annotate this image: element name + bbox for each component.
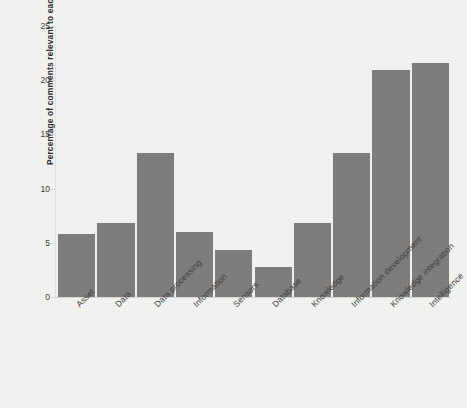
y-tick-mark — [51, 189, 55, 190]
y-tick-mark — [51, 134, 55, 135]
x-tick-label: Information development — [349, 234, 424, 309]
x-tick-label: Information — [191, 271, 229, 309]
y-tick-mark — [51, 297, 55, 298]
y-tick-mark — [51, 26, 55, 27]
x-tick-label: Asset — [74, 287, 96, 309]
x-tick-label: Database — [270, 276, 303, 309]
y-tick-mark — [51, 80, 55, 81]
x-tick-label: Data — [113, 289, 133, 309]
x-tick-label: Intelligence — [427, 271, 465, 309]
x-tick-label: Sensors — [231, 279, 261, 309]
x-tick-label: Knowledge — [309, 272, 346, 309]
y-tick-mark — [51, 243, 55, 244]
bar-chart-figure: Percentage of comments relevant to each … — [0, 0, 467, 408]
x-axis-tick-labels: AssetDataData processingInformationSenso… — [0, 0, 467, 408]
